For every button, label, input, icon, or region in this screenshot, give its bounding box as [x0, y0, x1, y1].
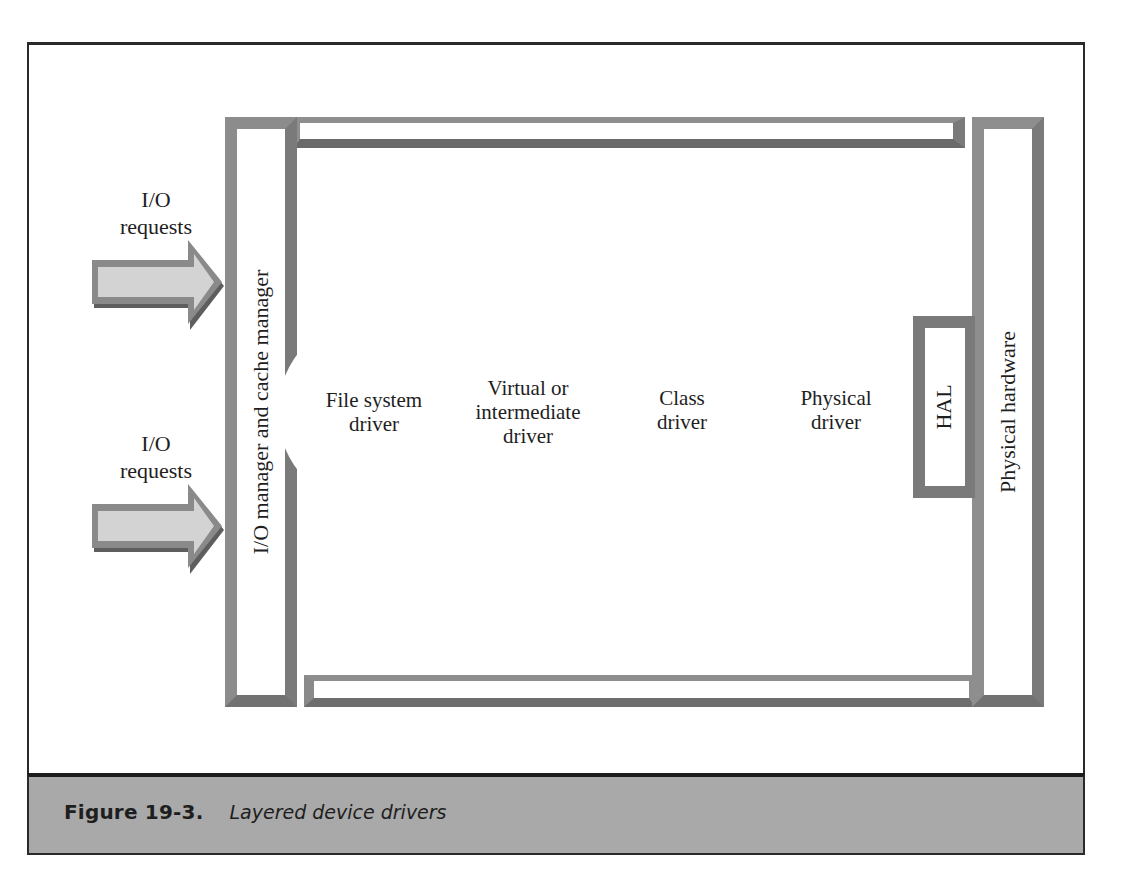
bottom-connector-bar: [304, 675, 975, 707]
driver-label: Class driver: [657, 386, 707, 434]
io-requests-label-2: I/O requests: [96, 430, 216, 484]
top-connector-bar: [294, 117, 965, 148]
right-arrow-icon: [90, 484, 226, 576]
figure-title: Layered device drivers: [230, 801, 447, 823]
io-manager-label: I/O manager and cache manager: [248, 270, 274, 555]
driver-label: Virtual or intermediate driver: [476, 376, 581, 448]
driver-physical: Physical driver: [740, 314, 932, 506]
hal-label: HAL: [931, 384, 957, 429]
physical-hardware-label: Physical hardware: [995, 331, 1021, 493]
io-requests-label-1: I/O requests: [96, 186, 216, 240]
figure-caption: Figure 19-3.Layered device drivers: [64, 800, 447, 824]
right-arrow-icon: [90, 240, 226, 332]
driver-label: Physical driver: [800, 386, 871, 434]
driver-label: File system driver: [326, 388, 422, 436]
figure-number: Figure 19-3.: [64, 800, 204, 824]
